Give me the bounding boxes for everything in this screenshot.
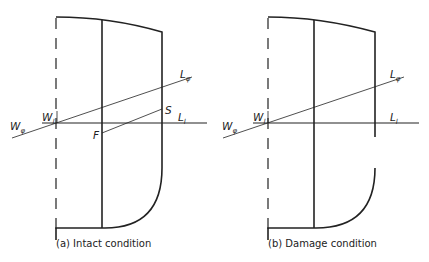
hull-upper-outline-b [268, 17, 375, 137]
label-L-l-a: Ll [178, 111, 186, 126]
label-F-a: F [93, 129, 100, 141]
caption-a: (a) Intact condition [56, 238, 151, 249]
label-W-l-b: Wl [253, 111, 265, 126]
panel-damage: Wφ Wl Lφ Ll (b) Damage condition [222, 17, 419, 249]
label-W-phi-a: Wφ [10, 120, 25, 135]
line-F-S-a [102, 109, 162, 133]
caption-b: (b) Damage condition [268, 238, 377, 249]
label-L-l-b: Ll [390, 111, 398, 126]
label-S-a: S [165, 104, 172, 116]
diagram-canvas: Wφ Wl Lφ Ll F S (a) Intact condition Wφ … [0, 0, 429, 262]
hull-lower-outline-b [268, 168, 375, 240]
hull-outline-a [56, 17, 162, 240]
label-W-l-a: Wl [42, 111, 54, 126]
panel-intact: Wφ Wl Lφ Ll F S (a) Intact condition [10, 17, 207, 249]
label-W-phi-b: Wφ [222, 120, 237, 135]
